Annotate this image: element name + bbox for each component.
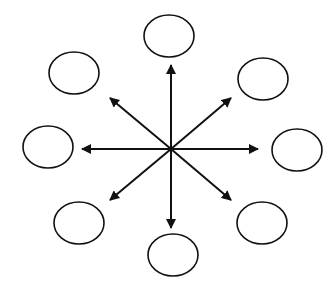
- node-upper-right: [238, 58, 288, 100]
- arrow-down-left: [110, 149, 171, 200]
- arrow-up-left: [110, 98, 171, 149]
- nodes-group: [23, 15, 322, 276]
- node-bottom: [148, 234, 198, 276]
- hub-spoke-diagram: [0, 0, 336, 297]
- node-upper-left: [49, 52, 99, 94]
- node-right: [272, 129, 322, 171]
- arrow-up-right: [171, 98, 231, 149]
- arrow-down-right: [171, 149, 231, 200]
- node-lower-left: [54, 202, 104, 244]
- node-left: [23, 126, 73, 168]
- node-top: [144, 15, 194, 57]
- arrows-group: [82, 65, 258, 228]
- node-lower-right: [237, 202, 287, 244]
